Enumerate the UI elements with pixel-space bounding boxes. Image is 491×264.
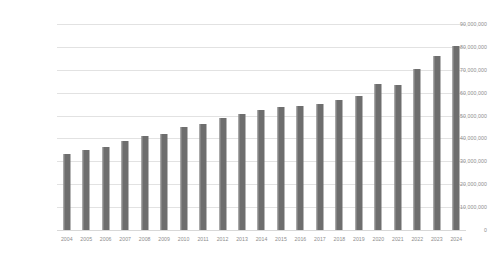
x-tick-label: 2008 [133, 236, 157, 242]
bar[interactable] [433, 56, 440, 230]
y-tick-label: 90,000,000 [460, 21, 487, 27]
bar-slot [57, 24, 76, 230]
x-tick-label: 2023 [425, 236, 449, 242]
bar[interactable] [141, 136, 148, 230]
y-axis [0, 24, 52, 230]
x-tick-label: 2009 [152, 236, 176, 242]
gridline [57, 230, 466, 231]
x-tick-label: 2013 [230, 236, 254, 242]
bar-slot [154, 24, 173, 230]
y-tick-label: 10,000,000 [460, 204, 487, 210]
x-tick-label: 2007 [113, 236, 137, 242]
y-tick-label: 60,000,000 [460, 90, 487, 96]
bar-slot [252, 24, 271, 230]
bar[interactable] [180, 127, 187, 230]
x-tick-label: 2012 [211, 236, 235, 242]
x-tick-label: 2022 [405, 236, 429, 242]
x-tick-label: 2018 [327, 236, 351, 242]
x-tick-label: 2021 [386, 236, 410, 242]
bar[interactable] [453, 46, 460, 230]
bar-slot [193, 24, 212, 230]
bar[interactable] [83, 150, 90, 230]
y-tick-label: 80,000,000 [460, 44, 487, 50]
x-tick-label: 2019 [347, 236, 371, 242]
bar[interactable] [316, 104, 323, 230]
x-tick-label: 2006 [94, 236, 118, 242]
y-tick-label: 20,000,000 [460, 181, 487, 187]
x-tick-label: 2017 [308, 236, 332, 242]
bar[interactable] [414, 69, 421, 230]
y-tick-label: 40,000,000 [460, 135, 487, 141]
bar[interactable] [102, 147, 109, 230]
bar-slot [213, 24, 232, 230]
bar-slot [115, 24, 134, 230]
bar-slot [310, 24, 329, 230]
y-tick-label: 0 [484, 227, 487, 233]
bar-slot [447, 24, 466, 230]
bar-slot [291, 24, 310, 230]
bar-slot [174, 24, 193, 230]
bar[interactable] [394, 85, 401, 230]
x-tick-label: 2015 [269, 236, 293, 242]
x-tick-label: 2004 [55, 236, 79, 242]
bar[interactable] [161, 134, 168, 230]
bar-slot [271, 24, 290, 230]
bar-slot [408, 24, 427, 230]
x-tick-label: 2014 [250, 236, 274, 242]
bar-slot [232, 24, 251, 230]
bar[interactable] [277, 107, 284, 230]
y-tick-label: 30,000,000 [460, 158, 487, 164]
x-tick-label: 2011 [191, 236, 215, 242]
bar[interactable] [355, 96, 362, 230]
bar[interactable] [63, 154, 70, 230]
bar-slot [330, 24, 349, 230]
bar-slot [96, 24, 115, 230]
x-tick-label: 2020 [366, 236, 390, 242]
x-tick-label: 2016 [288, 236, 312, 242]
bar[interactable] [297, 106, 304, 230]
bar[interactable] [122, 141, 129, 230]
bar[interactable] [200, 124, 207, 230]
bar-slot [349, 24, 368, 230]
bars-layer [57, 24, 466, 230]
bar[interactable] [219, 118, 226, 230]
x-tick-label: 2010 [172, 236, 196, 242]
x-tick-label: 2024 [444, 236, 468, 242]
x-tick-label: 2005 [74, 236, 98, 242]
bar[interactable] [239, 114, 246, 230]
bar[interactable] [258, 110, 265, 230]
bar-slot [76, 24, 95, 230]
y-tick-label: 70,000,000 [460, 67, 487, 73]
bar-slot [369, 24, 388, 230]
bar-slot [388, 24, 407, 230]
bar[interactable] [336, 100, 343, 230]
bar[interactable] [375, 84, 382, 230]
bar-slot [135, 24, 154, 230]
bar-chart: 2004200520062007200820092010201120122013… [0, 0, 491, 264]
bar-slot [427, 24, 446, 230]
y-tick-label: 50,000,000 [460, 113, 487, 119]
